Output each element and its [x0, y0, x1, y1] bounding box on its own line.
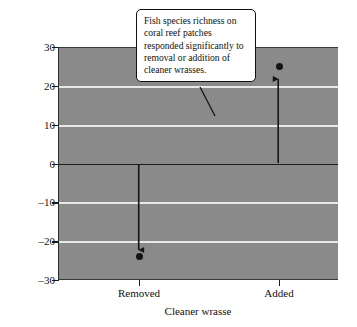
zero-reference-line — [59, 164, 338, 166]
xtick-label-removed: Removed — [118, 288, 160, 299]
xtick-mark-removed — [139, 280, 140, 286]
ytick-label-neg10: –10 — [39, 197, 56, 208]
callout-box: Fish species richness on coral reef patc… — [136, 9, 256, 82]
gridline-10 — [59, 125, 338, 127]
datapoint-added — [276, 63, 283, 70]
gridline-neg20 — [59, 241, 338, 243]
gridline-20 — [59, 86, 338, 88]
ytick-label-neg20: –20 — [39, 236, 56, 247]
x-axis-title: Cleaner wrasse — [58, 305, 338, 317]
gridline-neg10 — [59, 202, 338, 204]
ytick-label-30: 30 — [44, 42, 55, 53]
ytick-label-0: 0 — [50, 158, 56, 169]
ytick-label-neg30: –30 — [39, 274, 56, 285]
figure-container: Change in fish species richness (percent… — [0, 0, 357, 327]
ytick-label-20: 20 — [44, 80, 55, 91]
axis-bottom-edge — [59, 279, 338, 280]
xtick-label-added: Added — [264, 288, 293, 299]
ytick-label-10: 10 — [44, 119, 55, 130]
datapoint-removed — [136, 253, 143, 260]
xtick-mark-added — [279, 280, 280, 286]
